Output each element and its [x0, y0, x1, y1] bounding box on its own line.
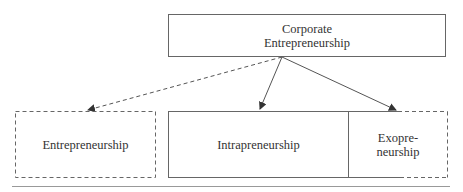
exopreneurship-label: Exopre- neurship	[348, 111, 448, 178]
entrepreneurship-label: Entrepreneurship	[15, 111, 156, 178]
edge-to-intrapreneurship	[260, 57, 282, 109]
corporate-entrepreneurship-label: Corporate Entrepreneurship	[168, 15, 446, 57]
top-label-line1: Corporate	[282, 22, 332, 36]
exo-label-line1: Exopre-	[378, 131, 418, 145]
top-label-line2: Entrepreneurship	[264, 36, 350, 50]
intrapreneurship-label: Intrapreneurship	[168, 111, 349, 178]
edge-to-exopreneurship	[282, 57, 396, 110]
exo-label-line2: neurship	[376, 145, 419, 159]
edge-to-entrepreneurship	[88, 57, 282, 110]
